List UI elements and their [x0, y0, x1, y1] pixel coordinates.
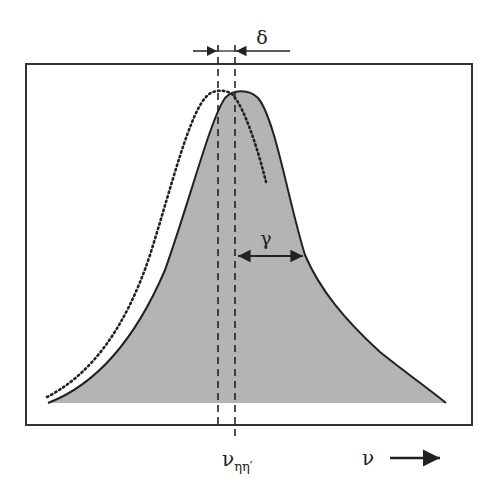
- center-subscript: ηη′: [234, 459, 253, 474]
- center-symbol: ν: [222, 447, 234, 471]
- line-shape-diagram: δ γ νηη′ ν: [0, 0, 499, 490]
- gamma-label: γ: [260, 227, 271, 249]
- center-frequency-label: νηη′: [222, 447, 253, 474]
- delta-label: δ: [256, 26, 267, 48]
- frequency-axis-label: ν: [362, 446, 374, 470]
